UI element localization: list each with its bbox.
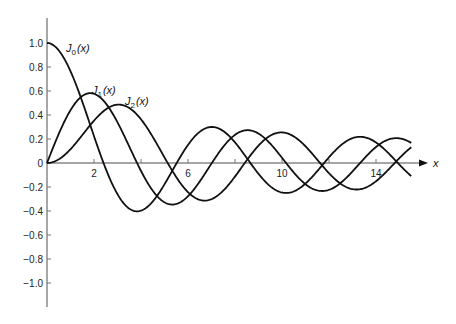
y-tick-label: −0.2 xyxy=(23,182,43,193)
curve-j2x xyxy=(47,105,411,201)
y-tick-label: −1.0 xyxy=(23,278,43,289)
curve-label-j1: J1(x) xyxy=(91,84,116,99)
x-ticks: 261014 xyxy=(91,159,382,179)
curve-label-j0: J0(x) xyxy=(65,42,90,57)
curves xyxy=(47,43,411,211)
y-tick-label: 0 xyxy=(37,158,43,169)
y-tick-label: 0.6 xyxy=(29,86,43,97)
x-axis-arrow-icon xyxy=(419,160,428,167)
y-tick-label: −0.6 xyxy=(23,230,43,241)
y-tick-label: −0.4 xyxy=(23,206,43,217)
x-tick-label: 6 xyxy=(185,168,191,179)
curve-j0x xyxy=(47,43,411,211)
y-tick-label: −0.8 xyxy=(23,254,43,265)
curve-j1x xyxy=(47,93,411,204)
x-axis-label: x xyxy=(432,157,439,169)
y-tick-label: 1.0 xyxy=(29,38,43,49)
x-tick-label: 10 xyxy=(276,168,288,179)
x-tick-label: 2 xyxy=(91,168,97,179)
y-tick-label: 0.8 xyxy=(29,62,43,73)
axes: x xyxy=(47,18,439,307)
y-tick-label: 0.4 xyxy=(29,110,43,121)
bessel-chart: x 1.00.80.60.40.20−0.2−0.4−0.6−0.8−1.0 2… xyxy=(0,0,456,324)
y-tick-label: 0.2 xyxy=(29,134,43,145)
